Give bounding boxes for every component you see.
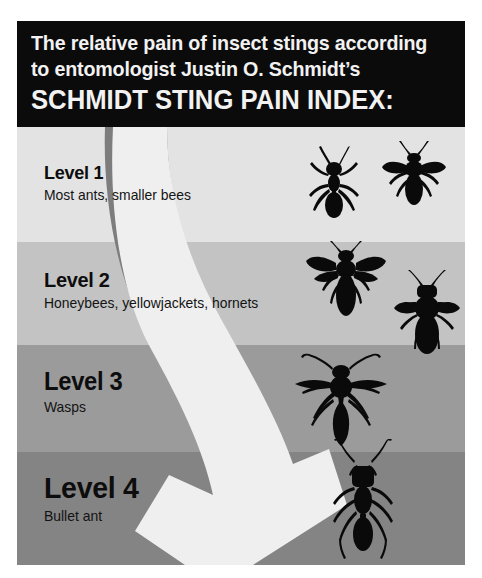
level-4-description: Bullet ant (44, 508, 140, 524)
level-1-text-block: Level 1 Most ants, smaller bees (44, 162, 197, 203)
small-bee-icon (381, 141, 447, 209)
pain-level-bands: Level 1 Most ants, smaller bees Level 2 … (17, 127, 465, 565)
ant-icon (308, 144, 360, 220)
level-2-title: Level 2 (44, 268, 256, 292)
level-2-text-block: Level 2 Honeybees, yellowjackets, hornet… (44, 268, 267, 311)
header-title: SCHMIDT STING PAIN INDEX: (31, 84, 430, 117)
bullet-ant-icon (317, 439, 409, 561)
header-line-2: to entomologist Justin O. Schmidt’s (31, 56, 434, 82)
schmidt-sting-pain-index-poster: The relative pain of insect stings accor… (0, 0, 482, 578)
level-1-title: Level 1 (44, 162, 189, 184)
level-1-description: Most ants, smaller bees (44, 187, 191, 203)
hornet-icon (393, 270, 461, 355)
level-4-text-block: Level 4 Bullet ant (44, 471, 144, 524)
poster-header: The relative pain of insect stings accor… (17, 21, 465, 127)
level-3-description: Wasps (44, 399, 123, 415)
honeybee-icon (305, 241, 387, 319)
level-4-title: Level 4 (44, 471, 139, 505)
level-2-description: Honeybees, yellowjackets, hornets (44, 295, 258, 311)
wasp-icon (293, 352, 389, 448)
level-3-text-block: Level 3 Wasps (44, 367, 127, 415)
header-line-1: The relative pain of insect stings accor… (31, 30, 434, 56)
level-3-title: Level 3 (44, 367, 123, 396)
